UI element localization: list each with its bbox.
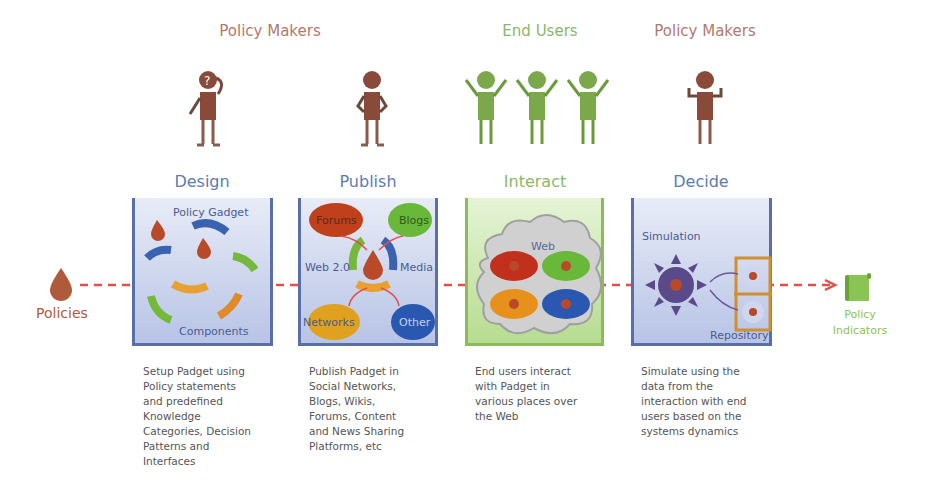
design-description: Setup Padget using Policy statements and…: [143, 364, 293, 469]
design-desc-line: and predefined: [143, 394, 293, 409]
interact-desc-line: various places over: [475, 394, 625, 409]
decide-description: Simulate using the data from the interac…: [641, 364, 791, 439]
interact-desc-line: the Web: [475, 409, 625, 424]
media-label: Media: [400, 261, 433, 274]
simulation-repository-icon: [634, 198, 775, 346]
publish-box: Forums Blogs Web 2.0 Media Networks Othe…: [298, 198, 438, 346]
design-desc-line: Patterns and: [143, 439, 293, 454]
decide-box: Simulation Repository: [631, 198, 772, 346]
scroll-icon: [844, 272, 874, 304]
input-label-policies: Policies: [36, 305, 88, 321]
web-label: Web: [531, 240, 555, 253]
publish-desc-line: Blogs, Wikis,: [309, 394, 459, 409]
design-desc-line: Interfaces: [143, 454, 293, 469]
publish-desc-line: Platforms, etc: [309, 439, 459, 454]
decide-desc-line: Simulate using the: [641, 364, 791, 379]
decide-desc-line: interaction with end: [641, 394, 791, 409]
forums-label: Forums: [316, 214, 357, 227]
publish-desc-line: Social Networks,: [309, 379, 459, 394]
decide-desc-line: data from the: [641, 379, 791, 394]
output-label-line2: Indicators: [830, 323, 890, 339]
decide-desc-line: users based on the: [641, 409, 791, 424]
gadget-components-icon: [135, 198, 276, 346]
decide-desc-line: systems dynamics: [641, 424, 791, 439]
other-label: Other: [399, 316, 430, 329]
blogs-label: Blogs: [399, 214, 429, 227]
publish-description: Publish Padget in Social Networks, Blogs…: [309, 364, 459, 454]
web-cloud-icon: [468, 198, 607, 346]
output-label: Policy Indicators: [830, 307, 890, 339]
publish-desc-line: and News Sharing: [309, 424, 459, 439]
design-desc-line: Categories, Decision: [143, 424, 293, 439]
drop-icon: [46, 266, 76, 302]
repository-label: Repository: [710, 329, 769, 342]
interact-desc-line: End users interact: [475, 364, 625, 379]
output-label-line1: Policy: [830, 307, 890, 323]
interact-desc-line: with Padget in: [475, 379, 625, 394]
publish-desc-line: Forums, Content: [309, 409, 459, 424]
networks-label: Networks: [303, 316, 355, 329]
components-label: Components: [179, 325, 249, 338]
publish-desc-line: Publish Padget in: [309, 364, 459, 379]
interact-box: Web: [465, 198, 604, 346]
design-desc-line: Policy statements: [143, 379, 293, 394]
design-box: Policy Gadget Components: [132, 198, 273, 346]
interact-description: End users interact with Padget in variou…: [475, 364, 625, 424]
design-desc-line: Knowledge: [143, 409, 293, 424]
web20-label: Web 2.0: [305, 261, 350, 274]
design-desc-line: Setup Padget using: [143, 364, 293, 379]
